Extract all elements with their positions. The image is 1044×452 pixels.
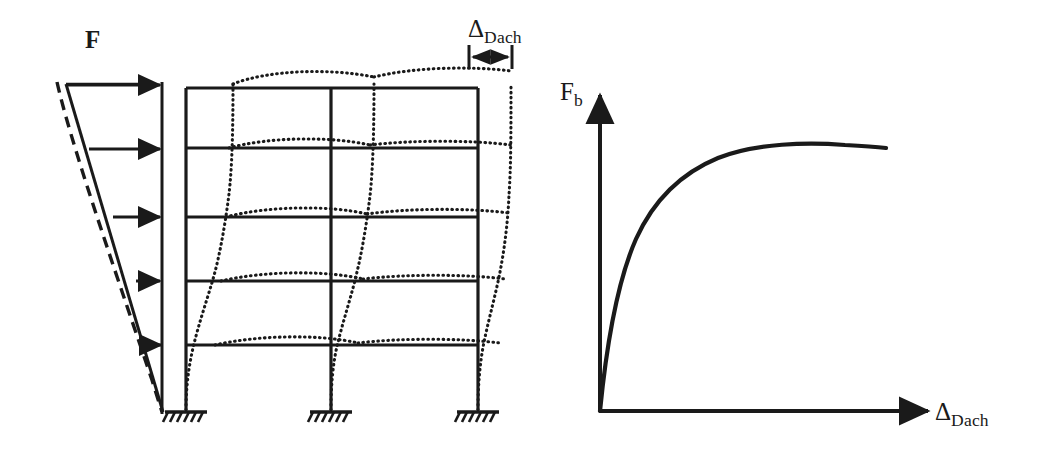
deformed-beam-4-right (370, 141, 511, 145)
capacity-curve (600, 144, 886, 411)
fb-symbol: F (560, 78, 574, 105)
deformed-beam-5-right (374, 68, 511, 77)
deformed-beam-1-right (358, 339, 500, 343)
figure-canvas (0, 0, 1044, 452)
deformed-beam-2-right (363, 275, 505, 279)
delta-axis-subscript: Dach (951, 410, 989, 430)
support-middle (308, 412, 352, 422)
roof-displacement-axis-label: ΔDach (935, 399, 989, 430)
support-right (455, 412, 499, 422)
load-envelope-solid (66, 84, 163, 412)
deformed-column-middle (331, 84, 374, 410)
roof-displacement-label: ΔDach (468, 16, 522, 47)
delta-subscript: Dach (484, 27, 522, 47)
deformed-beam-3-right (367, 209, 509, 214)
delta-axis-symbol: Δ (935, 398, 951, 425)
supports-group (163, 412, 499, 422)
fb-subscript: b (574, 90, 583, 110)
deformed-beam-5-left (233, 72, 374, 84)
frame-undeformed (186, 88, 478, 410)
deformed-column-right (478, 84, 511, 410)
load-pattern-group (57, 82, 163, 414)
roof-displacement-dimension (469, 45, 512, 69)
support-left (163, 412, 207, 422)
deformed-column-left (186, 84, 233, 410)
delta-symbol: Δ (468, 15, 484, 42)
capacity-chart-group (599, 95, 928, 411)
frame-deformed (186, 68, 511, 410)
force-label: F (85, 27, 100, 52)
pushover-figure: F ΔDach Fb ΔDach (0, 0, 1044, 452)
frame-group (163, 45, 512, 422)
load-envelope-dashed (57, 82, 162, 412)
base-shear-axis-label: Fb (560, 79, 583, 110)
